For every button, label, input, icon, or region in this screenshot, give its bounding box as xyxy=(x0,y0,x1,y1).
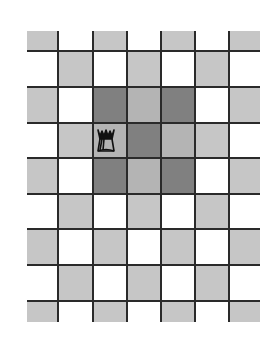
dark-square xyxy=(27,87,58,123)
highlighted-square xyxy=(127,87,161,123)
light-square xyxy=(58,87,93,123)
dark-square xyxy=(58,123,93,158)
dark-square xyxy=(58,265,93,301)
light-square xyxy=(127,229,161,265)
light-square xyxy=(195,301,229,322)
light-square xyxy=(229,123,260,158)
dark-square xyxy=(229,229,260,265)
highlighted-square xyxy=(127,158,161,194)
highlighted-square xyxy=(161,87,195,123)
dark-square xyxy=(195,123,229,158)
grid-line-horizontal xyxy=(27,300,260,302)
light-square xyxy=(229,265,260,301)
light-square xyxy=(58,31,93,51)
light-square xyxy=(195,31,229,51)
light-square xyxy=(229,51,260,87)
light-square xyxy=(161,51,195,87)
dark-square xyxy=(127,194,161,229)
dark-square xyxy=(229,31,260,51)
light-square xyxy=(195,229,229,265)
dark-square xyxy=(229,158,260,194)
dark-square xyxy=(27,158,58,194)
light-square xyxy=(58,301,93,322)
highlighted-square xyxy=(161,158,195,194)
light-square xyxy=(93,265,127,301)
grid-line-horizontal xyxy=(27,157,260,159)
dark-square xyxy=(93,229,127,265)
grid-line-horizontal xyxy=(27,264,260,266)
dark-square xyxy=(127,265,161,301)
highlighted-square xyxy=(161,123,195,158)
grid-line-vertical xyxy=(126,31,128,322)
light-square xyxy=(93,194,127,229)
dark-square xyxy=(127,51,161,87)
light-square xyxy=(127,301,161,322)
highlighted-square xyxy=(127,123,161,158)
light-square xyxy=(127,31,161,51)
dark-square xyxy=(161,301,195,322)
dark-square xyxy=(161,229,195,265)
grid-line-horizontal xyxy=(27,193,260,195)
dark-square xyxy=(93,301,127,322)
grid-line-vertical xyxy=(194,31,196,322)
grid-line-horizontal xyxy=(27,86,260,88)
light-square xyxy=(229,194,260,229)
dark-square xyxy=(27,31,58,51)
light-square xyxy=(195,87,229,123)
dark-square xyxy=(195,194,229,229)
grid-line-vertical xyxy=(228,31,230,322)
light-square xyxy=(58,229,93,265)
dark-square xyxy=(58,51,93,87)
highlighted-square xyxy=(93,87,127,123)
grid-line-vertical xyxy=(92,31,94,322)
dark-square xyxy=(195,51,229,87)
grid-line-vertical xyxy=(160,31,162,322)
light-square xyxy=(27,194,58,229)
dark-square xyxy=(229,87,260,123)
dark-square xyxy=(93,31,127,51)
dark-square xyxy=(27,229,58,265)
light-square xyxy=(93,51,127,87)
dark-square xyxy=(161,31,195,51)
dark-square xyxy=(229,301,260,322)
grid-line-horizontal xyxy=(27,122,260,124)
light-square xyxy=(27,51,58,87)
dark-square xyxy=(27,301,58,322)
dark-square xyxy=(58,194,93,229)
light-square xyxy=(27,265,58,301)
light-square xyxy=(27,123,58,158)
dark-square xyxy=(195,265,229,301)
queen-piece-icon xyxy=(94,129,118,153)
light-square xyxy=(161,265,195,301)
grid-line-vertical xyxy=(57,31,59,322)
light-square xyxy=(195,158,229,194)
light-square xyxy=(161,194,195,229)
chessboard-diagram xyxy=(0,0,278,346)
grid-line-horizontal xyxy=(27,50,260,52)
highlighted-square xyxy=(93,158,127,194)
grid-line-horizontal xyxy=(27,228,260,230)
light-square xyxy=(58,158,93,194)
